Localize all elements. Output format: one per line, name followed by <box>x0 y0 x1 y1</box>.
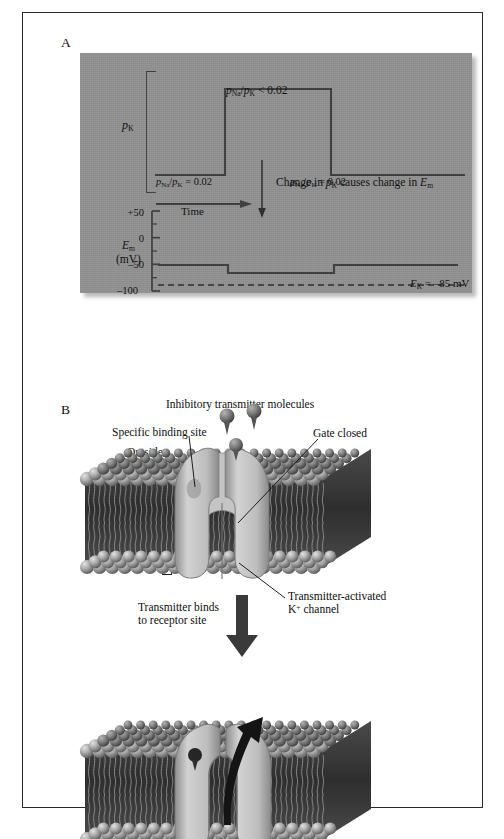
em-tick-label-neg100: –100 <box>102 285 138 297</box>
transmitter-molecule <box>247 404 262 431</box>
causal-pre: Change in <box>276 176 326 188</box>
panel-a-plot-area: pK pNa/pK < 0.02 pNa/pK = 0.02 pNa/pK = … <box>80 53 472 293</box>
em-tick-label-neg50: –50 <box>108 259 144 271</box>
upper-membrane-diagram <box>80 404 371 599</box>
causal-down-arrow <box>256 160 268 218</box>
pk-step-trace <box>155 71 465 193</box>
pk-axis-label-sub: K <box>128 124 134 133</box>
causal-note-label: Change in pK causes change in Em <box>276 176 433 190</box>
pna-pk-high-annotation: pNa/pK < 0.02 <box>226 84 287 98</box>
figure-frame: A pK pNa/pK < 0.02 pNa/pK = 0.02 pNa/pK … <box>22 12 483 808</box>
causal-mid: causes change in <box>337 176 420 188</box>
pna-pk-left-annotation: pNa/pK = 0.02 <box>156 176 212 188</box>
ek-e: E <box>410 277 417 289</box>
pna-left-relation: = 0.02 <box>183 176 213 187</box>
pna-high-sub1: Na <box>232 89 241 98</box>
causal-esub: m <box>427 181 433 190</box>
pna-high-relation: < 0.02 <box>255 84 287 96</box>
em-tick-label-0: 0 <box>108 233 144 245</box>
transmitter-binds-arrow <box>226 595 258 657</box>
panel-b-artwork <box>23 383 484 809</box>
time-axis-label: Time <box>181 205 204 217</box>
ek-value-label: EK = –85 mV <box>410 277 469 291</box>
time-axis-arrow <box>156 199 252 209</box>
em-axis-sub: m <box>129 244 135 253</box>
pk-axis-label: pK <box>122 119 134 134</box>
ek-val: = –85 mV <box>422 277 469 289</box>
k-channel-protein-closed <box>175 448 269 579</box>
em-tick-label-50: +50 <box>108 207 144 219</box>
panel-a-letter: A <box>61 35 71 50</box>
lower-membrane-diagram <box>80 717 371 839</box>
transmitter-molecule <box>220 409 235 436</box>
